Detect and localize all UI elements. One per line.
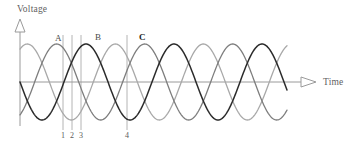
y-axis-title: Voltage — [17, 5, 47, 15]
tick-label-4: 4 — [125, 132, 129, 140]
tick-label-2: 2 — [70, 132, 74, 140]
x-axis-arrow-icon — [301, 77, 316, 87]
tick-label-1: 1 — [61, 132, 65, 140]
waveform-canvas — [0, 0, 359, 151]
peak-label-a: A — [55, 34, 62, 43]
peak-label-b: B — [95, 33, 101, 42]
y-axis-arrow-icon — [15, 19, 25, 32]
x-axis-title: Time — [323, 78, 344, 88]
tick-label-3: 3 — [79, 132, 83, 140]
peak-label-c: C — [139, 33, 146, 42]
waveform-figure: Voltage Time A B C 1 2 3 4 — [0, 0, 359, 151]
